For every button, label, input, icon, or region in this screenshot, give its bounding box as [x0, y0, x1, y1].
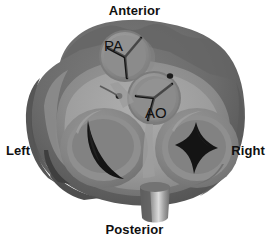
orientation-label-posterior: Posterior	[0, 222, 269, 237]
aortic-valve: AO	[127, 71, 181, 125]
mitral-valve	[60, 108, 148, 188]
pulmonary-valve-tag: PA	[104, 37, 123, 54]
orientation-label-left: Left	[6, 143, 30, 158]
right-coronary-ostium	[167, 73, 173, 79]
aortic-valve-tag: AO	[145, 104, 167, 121]
orientation-label-anterior: Anterior	[0, 3, 269, 18]
inferior-stem	[140, 182, 170, 223]
heart-base-illustration: PA AO	[0, 0, 269, 240]
orientation-label-right: Right	[231, 143, 265, 158]
anatomy-figure: PA AO	[0, 0, 269, 240]
